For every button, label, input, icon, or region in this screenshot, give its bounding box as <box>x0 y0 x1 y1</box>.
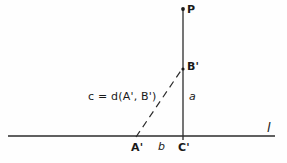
label-point-A-prime: A' <box>131 142 143 153</box>
label-segment-a: a <box>189 91 196 102</box>
label-point-B-prime: B' <box>187 61 199 72</box>
label-point-P: P <box>187 4 195 15</box>
label-segment-b: b <box>158 141 165 152</box>
geometry-canvas <box>0 0 287 163</box>
label-distance-formula: c = d(A', B') <box>88 91 157 102</box>
geometry-diagram: P B' a c = d(A', B') A' b C' l <box>0 0 287 163</box>
point-marker-B-prime <box>181 67 184 70</box>
label-line-l: l <box>267 121 271 134</box>
point-marker-P <box>181 7 185 11</box>
label-point-C-prime: C' <box>178 142 190 153</box>
dashed-segment-c <box>136 69 182 137</box>
